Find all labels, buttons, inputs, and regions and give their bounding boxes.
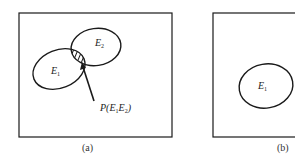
sample-space-frame-a bbox=[19, 13, 172, 137]
panel-b: E1 (b) bbox=[213, 13, 295, 154]
venn-diagram-figure: E1 E2 P(E1E2) (a) E1 (b) bbox=[0, 0, 295, 164]
sample-space-frame-b bbox=[213, 13, 295, 137]
caption-a: (a) bbox=[82, 142, 93, 154]
set-e1-label-a: E1 bbox=[50, 65, 60, 77]
set-e1-label-b: E1 bbox=[257, 80, 267, 92]
intersection-probability-label: P(E1E2) bbox=[99, 102, 132, 114]
panel-a: E1 E2 P(E1E2) (a) bbox=[19, 13, 172, 154]
caption-b: (b) bbox=[277, 142, 289, 154]
arrow-icon bbox=[80, 62, 94, 101]
set-e2-label: E2 bbox=[94, 37, 104, 49]
